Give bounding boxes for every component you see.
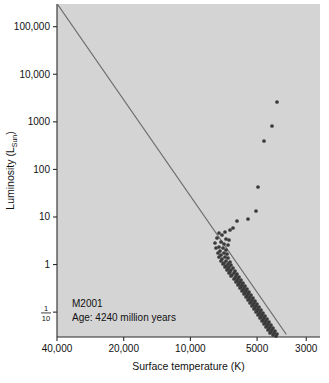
y-tick-label-denominator: 10	[42, 314, 50, 323]
y-tick-label: 10,000	[19, 69, 50, 80]
data-point	[262, 139, 266, 143]
data-point	[228, 228, 232, 232]
data-point	[270, 124, 274, 128]
data-point	[213, 241, 217, 245]
x-tick-label: 10,000	[175, 343, 206, 354]
data-point	[235, 219, 239, 223]
data-point	[275, 100, 279, 104]
y-tick-label: 10	[39, 211, 51, 222]
data-point	[226, 243, 230, 247]
data-point	[215, 236, 219, 240]
y-tick-label: 1000	[28, 116, 51, 127]
plot-area-background	[57, 4, 320, 337]
data-point	[227, 238, 231, 242]
y-tick-label-numerator: 1	[44, 304, 48, 313]
data-point	[223, 230, 227, 234]
hr-diagram-figure: 100,00010,000100010010111040,00020,00010…	[0, 0, 329, 383]
y-tick-label: 100,000	[14, 21, 51, 32]
cluster-age: Age: 4240 million years	[72, 312, 176, 323]
data-point	[214, 246, 218, 250]
y-tick-label: 100	[33, 164, 50, 175]
data-point	[222, 242, 226, 246]
data-point	[256, 185, 260, 189]
y-axis-title-tail: )	[4, 131, 16, 135]
cluster-name: M2001	[72, 298, 103, 309]
data-point	[246, 217, 250, 221]
y-tick-label: 1	[44, 259, 50, 270]
x-tick-label: 3000	[295, 343, 318, 354]
data-point	[217, 231, 221, 235]
x-axis-title: Surface temperature (K)	[132, 360, 245, 372]
data-point	[229, 274, 233, 278]
y-axis-title-main: Luminosity (L	[4, 147, 16, 210]
y-axis-title-subscript: Sun	[11, 135, 18, 148]
data-point	[254, 209, 258, 213]
y-axis-title: Luminosity (LSun)	[4, 131, 18, 209]
x-tick-label: 40,000	[42, 343, 73, 354]
hr-diagram-chart: 100,00010,000100010010111040,00020,00010…	[0, 0, 329, 383]
x-tick-label: 5000	[246, 343, 269, 354]
x-tick-label: 20,000	[108, 343, 139, 354]
